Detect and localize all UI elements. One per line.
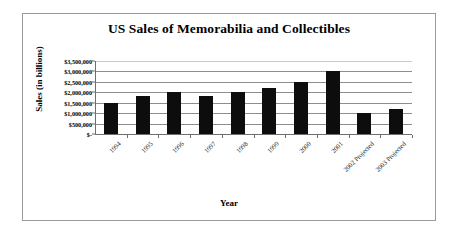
bar <box>357 113 371 134</box>
gridline <box>95 71 412 72</box>
y-tick-label: $1,500,000 <box>64 99 92 106</box>
plot-area: $-$500,000$1,000,000$1,500,000$2,000,000… <box>95 61 412 135</box>
bar <box>262 88 276 134</box>
x-tick-label: 2001 <box>329 140 343 154</box>
x-tick-mark <box>158 135 159 138</box>
x-tick-mark <box>222 135 223 138</box>
x-tick-label: 1998 <box>234 140 248 154</box>
bar <box>199 96 213 134</box>
x-tick-mark <box>254 135 255 138</box>
y-tick-label: $2,500,000 <box>64 78 92 85</box>
x-tick-label: 2002 Projected <box>342 140 375 173</box>
y-tick-label: $3,500,000 <box>64 58 92 65</box>
y-tick-label: $3,000,000 <box>64 68 92 75</box>
bar <box>326 71 340 134</box>
gridline <box>95 92 412 93</box>
x-tick-label: 1994 <box>108 140 122 154</box>
gridline <box>95 61 412 62</box>
x-tick-label: 1997 <box>203 140 217 154</box>
bar <box>389 109 403 134</box>
x-tick-mark <box>127 135 128 138</box>
x-tick-mark <box>412 135 413 138</box>
y-tick-label: $2,000,000 <box>64 89 92 96</box>
x-tick-mark <box>380 135 381 138</box>
x-tick-label: 1996 <box>171 140 185 154</box>
x-axis-line <box>95 134 412 135</box>
x-tick-mark <box>285 135 286 138</box>
chart-title: US Sales of Memorabilia and Collectibles <box>23 21 435 37</box>
gridline <box>95 82 412 83</box>
bar <box>136 96 150 134</box>
x-axis-title: Year <box>23 198 435 208</box>
y-tick-label: $1,000,000 <box>64 110 92 117</box>
x-tick-mark <box>190 135 191 138</box>
bar <box>167 92 181 134</box>
y-tick-label: $- <box>87 131 92 138</box>
y-axis-line <box>95 61 96 135</box>
x-tick-mark <box>317 135 318 138</box>
x-tick-label: 2000 <box>298 140 312 154</box>
bar <box>231 92 245 134</box>
y-tick-label: $500,000 <box>69 120 92 127</box>
x-tick-label: 2003 Projected <box>374 140 407 173</box>
chart-frame: US Sales of Memorabilia and Collectibles… <box>22 13 436 221</box>
x-tick-mark <box>349 135 350 138</box>
bar <box>294 82 308 134</box>
y-axis-title: Sales (in billions) <box>34 31 44 127</box>
bar <box>104 103 118 134</box>
x-tick-label: 1999 <box>266 140 280 154</box>
x-tick-label: 1995 <box>139 140 153 154</box>
